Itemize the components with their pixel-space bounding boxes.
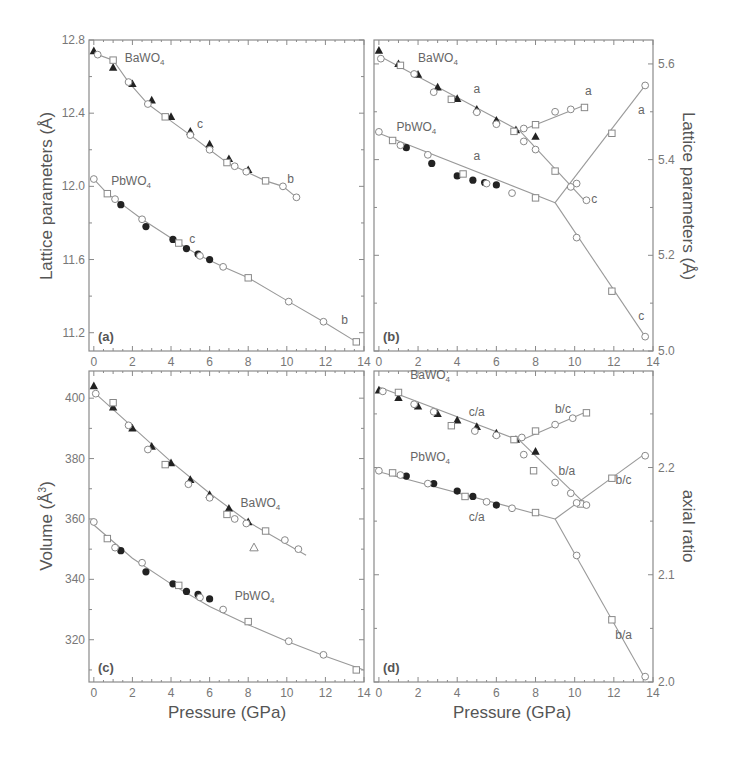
y-axis-label-axial-ratio: axial ratio bbox=[679, 490, 698, 563]
data-point bbox=[493, 121, 500, 128]
material-label: BaWO4 bbox=[240, 496, 280, 512]
y-tick-label: 2.2 bbox=[658, 461, 675, 475]
data-point bbox=[573, 180, 580, 187]
data-point bbox=[581, 104, 587, 110]
series-label: b bbox=[287, 172, 294, 186]
y-axis-label-lattice-left: Lattice parameters (Å) bbox=[37, 112, 56, 280]
x-tick-label: 0 bbox=[376, 355, 383, 369]
data-point bbox=[176, 240, 182, 246]
series-label: a bbox=[585, 84, 592, 98]
x-tick-label: 6 bbox=[493, 686, 500, 700]
x-tick-label: 12 bbox=[319, 355, 333, 369]
y-tick-label: 11.6 bbox=[63, 253, 86, 267]
data-point bbox=[125, 422, 132, 429]
data-point bbox=[285, 638, 292, 645]
series-label: c bbox=[638, 309, 644, 323]
y-tick-label: 12.4 bbox=[62, 106, 86, 120]
panel-label: (a) bbox=[98, 329, 114, 344]
data-point bbox=[139, 216, 146, 223]
data-point bbox=[220, 263, 227, 270]
data-point bbox=[90, 176, 97, 183]
y-tick-label: 11.2 bbox=[63, 326, 86, 340]
data-point bbox=[473, 109, 480, 116]
material-label: BaWO4 bbox=[418, 51, 458, 67]
fit-line bbox=[94, 525, 364, 670]
data-point bbox=[245, 275, 251, 281]
x-tick-label: 0 bbox=[376, 686, 383, 700]
data-point bbox=[285, 298, 292, 305]
data-point bbox=[281, 537, 288, 544]
fit-line bbox=[555, 203, 645, 337]
data-point bbox=[573, 234, 580, 241]
data-point bbox=[262, 528, 268, 534]
x-tick-label: 10 bbox=[280, 686, 294, 700]
data-point bbox=[448, 96, 454, 102]
series-label: c/a bbox=[469, 405, 485, 419]
data-point bbox=[112, 196, 119, 203]
data-point bbox=[395, 389, 401, 395]
data-point bbox=[185, 481, 192, 488]
data-point bbox=[206, 494, 213, 501]
series-label: c bbox=[591, 192, 597, 206]
data-point bbox=[197, 252, 204, 259]
y-tick-label: 12.8 bbox=[62, 33, 86, 47]
data-point bbox=[424, 480, 431, 487]
data-point bbox=[511, 128, 517, 134]
data-point bbox=[389, 137, 395, 143]
data-point bbox=[411, 71, 418, 78]
data-point bbox=[162, 114, 168, 120]
data-point bbox=[139, 559, 146, 566]
data-point bbox=[90, 382, 98, 390]
data-point bbox=[609, 475, 615, 481]
series-label: b/c bbox=[616, 473, 632, 487]
data-point bbox=[532, 195, 538, 201]
data-point bbox=[231, 516, 238, 523]
data-point bbox=[110, 57, 116, 63]
data-point bbox=[552, 421, 559, 428]
data-point bbox=[532, 146, 539, 153]
data-point bbox=[520, 451, 527, 458]
panel-d-axial-ratio: 024681012142.02.12.2BaWO4c/ab/cb/aPbWO4c… bbox=[374, 368, 675, 700]
data-point bbox=[552, 168, 558, 174]
data-point bbox=[389, 470, 395, 476]
y-axis-label-volume: Volume (Å3) bbox=[37, 481, 56, 571]
y-tick-label: 400 bbox=[65, 391, 85, 405]
data-point bbox=[642, 452, 649, 459]
material-label: PbWO4 bbox=[397, 120, 437, 136]
data-point bbox=[493, 432, 500, 439]
series-label: b/c bbox=[555, 402, 571, 416]
series-label: b bbox=[341, 313, 348, 327]
data-point bbox=[583, 197, 590, 204]
fit-line bbox=[94, 179, 356, 342]
series-label: a bbox=[638, 103, 645, 117]
material-label: BaWO4 bbox=[410, 368, 450, 384]
y-tick-label: 5.6 bbox=[658, 57, 675, 71]
data-point bbox=[424, 151, 431, 158]
y-tick-label: 12.0 bbox=[62, 179, 86, 193]
y-tick-label: 5.2 bbox=[658, 248, 675, 262]
data-point bbox=[280, 183, 287, 190]
data-point bbox=[104, 535, 110, 541]
data-point bbox=[112, 544, 119, 551]
y-tick-label: 320 bbox=[65, 633, 85, 647]
data-point bbox=[197, 594, 204, 601]
data-point bbox=[375, 467, 382, 474]
x-tick-label: 8 bbox=[532, 355, 539, 369]
data-point bbox=[483, 180, 490, 187]
series-label: c/a bbox=[469, 510, 485, 524]
y-tick-label: 5.0 bbox=[658, 344, 675, 358]
data-point bbox=[460, 171, 466, 177]
data-point bbox=[531, 447, 539, 455]
x-tick-label: 14 bbox=[357, 686, 371, 700]
data-point bbox=[520, 138, 527, 145]
data-point bbox=[531, 132, 539, 140]
series-label: b/a bbox=[559, 464, 576, 478]
data-point bbox=[471, 428, 478, 435]
data-point bbox=[142, 223, 149, 230]
data-point bbox=[567, 490, 574, 497]
data-point bbox=[353, 667, 359, 673]
data-point bbox=[509, 505, 516, 512]
data-point bbox=[104, 190, 110, 196]
y-tick-label: 380 bbox=[65, 452, 85, 466]
fit-line bbox=[379, 133, 555, 202]
